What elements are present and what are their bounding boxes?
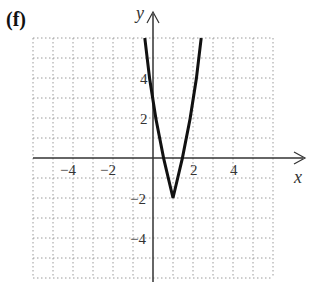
- x-tick-neg4: −4: [60, 163, 76, 178]
- x-tick-2: 2: [190, 163, 198, 178]
- y-tick-neg4: −4: [130, 232, 146, 247]
- y-tick-neg2: −2: [130, 192, 146, 207]
- y-tick-2: 2: [140, 112, 148, 127]
- y-axis: [147, 12, 159, 282]
- x-axis-label: x: [294, 168, 302, 186]
- x-tick-4: 4: [230, 163, 238, 178]
- y-axis-label: y: [136, 4, 144, 22]
- x-tick-neg2: −2: [100, 163, 116, 178]
- y-tick-4: 4: [140, 72, 148, 87]
- graph-plot: [0, 0, 312, 289]
